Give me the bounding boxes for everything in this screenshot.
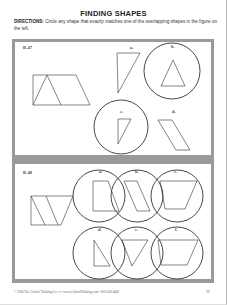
page-number: 29 — [206, 290, 209, 294]
problem-label-b48: B-48 — [23, 170, 32, 175]
directions: DIRECTIONS: Circle any shape that exactl… — [14, 19, 219, 32]
directions-label: DIRECTIONS: — [14, 19, 44, 24]
worksheet-page: FINDING SHAPES DIRECTIONS: Circle any sh… — [0, 0, 227, 305]
panel-b47 — [15, 42, 211, 155]
directions-text: Circle any shape that exactly matches on… — [14, 19, 217, 31]
panel-b48 — [15, 164, 211, 279]
page-title: FINDING SHAPES — [0, 9, 227, 18]
problem-label-b47: B-47 — [23, 45, 32, 50]
footer-copyright: © 2006 The Critical Thinking Co.™ • www.… — [14, 290, 119, 294]
